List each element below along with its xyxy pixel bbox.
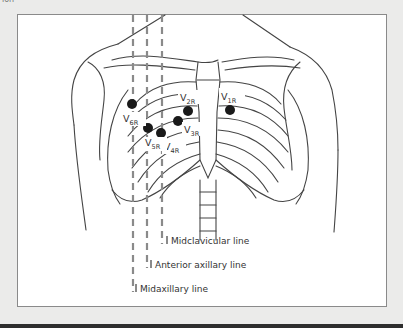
electrode-v6r <box>127 99 137 109</box>
bottom-bar <box>0 324 403 328</box>
electrode-v1r <box>225 105 235 115</box>
reference-line-labels: Midclavicular line Anterior axillary lin… <box>136 236 250 294</box>
electrode-v2r <box>183 106 193 116</box>
anterior-axillary-label: Anterior axillary line <box>155 260 247 270</box>
midclavicular-label: Midclavicular line <box>171 236 250 246</box>
electrode-v4r <box>156 128 166 138</box>
chest-diagram: V1R V2R V3R V4R V5R V6R Midclavicular li… <box>0 0 403 328</box>
electrode-v3r <box>173 116 183 126</box>
midaxillary-label: Midaxillary line <box>140 284 208 294</box>
